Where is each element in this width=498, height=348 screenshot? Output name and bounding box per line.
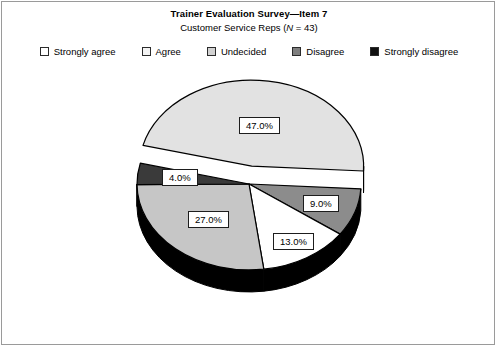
pie-value-label-strongly-disagree: 4.0%	[162, 169, 198, 186]
legend-label-agree: Agree	[156, 46, 181, 57]
pie-value-label-disagree: 9.0%	[303, 195, 339, 212]
legend-item-agree[interactable]: Agree	[142, 46, 181, 57]
chart-frame: Trainer Evaluation Survey—Item 7 Custome…	[1, 1, 495, 345]
subtitle-suffix: = 43)	[293, 22, 318, 33]
pie-chart-area: 47.0% 9.0% 13.0% 27.0% 4.0%	[2, 64, 496, 346]
legend-item-strongly-agree[interactable]: Strongly agree	[40, 46, 116, 57]
legend-label-disagree: Disagree	[306, 46, 344, 57]
legend-swatch-strongly-agree	[40, 47, 49, 56]
pie-value-label-agree: 13.0%	[273, 233, 314, 250]
title-block: Trainer Evaluation Survey—Item 7 Custome…	[2, 7, 496, 34]
legend-item-strongly-disagree[interactable]: Strongly disagree	[370, 46, 458, 57]
legend-label-undecided: Undecided	[221, 46, 266, 57]
subtitle-prefix: Customer Service Reps (	[180, 22, 286, 33]
chart-legend: Strongly agree Agree Undecided Disagree …	[2, 46, 496, 57]
pie-value-label-strongly-agree: 47.0%	[239, 117, 280, 134]
legend-item-disagree[interactable]: Disagree	[292, 46, 344, 57]
pie-value-label-undecided: 27.0%	[188, 211, 229, 228]
pie-chart-svg	[2, 64, 496, 314]
page-title: Trainer Evaluation Survey—Item 7	[2, 7, 496, 20]
legend-label-strongly-disagree: Strongly disagree	[384, 46, 458, 57]
legend-swatch-undecided	[207, 47, 216, 56]
legend-item-undecided[interactable]: Undecided	[207, 46, 266, 57]
legend-swatch-strongly-disagree	[370, 47, 379, 56]
legend-label-strongly-agree: Strongly agree	[54, 46, 116, 57]
legend-swatch-disagree	[292, 47, 301, 56]
legend-swatch-agree	[142, 47, 151, 56]
chart-subtitle: Customer Service Reps (N = 43)	[2, 21, 496, 34]
